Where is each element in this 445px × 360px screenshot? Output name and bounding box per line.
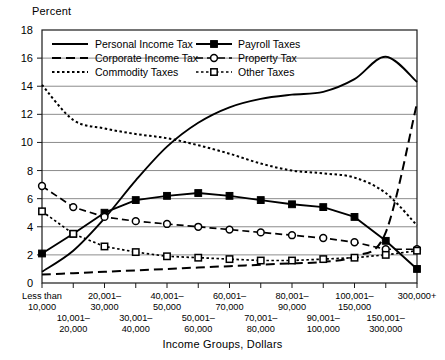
y-axis-tick-label: 0 [27, 277, 33, 289]
y-axis-ticks-group: 024681012141618 [21, 24, 42, 289]
legend-item-payroll-taxes: Payroll Taxes [196, 38, 300, 50]
data-point-marker-open-circle [351, 239, 358, 246]
data-point-marker-open-circle [70, 204, 77, 211]
data-point-marker-filled-square [320, 204, 327, 211]
x-axis-tick-label: 300,000+ [398, 291, 437, 301]
legend-item-other-taxes: Other Taxes [196, 66, 294, 78]
data-point-marker-open-square [351, 255, 357, 261]
series-personal-income-tax [42, 57, 417, 272]
data-point-marker-filled-square [351, 214, 358, 221]
x-axis-tick-label: Less than10,000 [22, 291, 62, 312]
legend-label: Property Tax [238, 52, 297, 64]
data-point-marker-filled-square [195, 190, 202, 197]
legend-label: Commodity Taxes [95, 66, 178, 78]
y-axis-tick-label: 6 [27, 193, 33, 205]
data-point-marker-filled-square [164, 192, 171, 199]
x-axis-tick-label: 20,001–30,000 [88, 291, 122, 312]
data-point-marker-filled-square [226, 192, 233, 199]
y-axis-tick-label: 8 [27, 165, 33, 177]
data-point-marker-open-circle [289, 232, 296, 239]
series-line [42, 57, 417, 272]
legend-label: Personal Income Tax [95, 38, 194, 50]
chart-container: Percent Income Groups, Dollars 024681012… [0, 0, 445, 360]
series-line [42, 85, 417, 226]
x-axis-tick-label: 60,001–70,000 [213, 291, 247, 312]
x-axis-tick-label: 150,001–300,000 [367, 313, 406, 334]
y-axis-tick-label: 4 [27, 221, 33, 233]
x-axis-tick-label: 70,001–80,000 [244, 313, 278, 334]
legend-item-personal-income-tax: Personal Income Tax [52, 38, 194, 50]
data-point-marker-open-circle [164, 221, 171, 228]
data-point-marker-filled-square [289, 201, 296, 208]
data-point-marker-open-square [258, 257, 264, 263]
x-axis-tick-label: 50,001–60,000 [182, 313, 216, 334]
data-point-marker-open-square [414, 247, 420, 253]
x-axis-tick-label: 30,001–40,000 [119, 313, 153, 334]
legend-label: Payroll Taxes [238, 38, 300, 50]
legend-item-commodity-taxes: Commodity Taxes [52, 66, 178, 78]
data-point-marker-filled-square [257, 197, 264, 204]
data-point-marker-filled-square [132, 197, 139, 204]
legend-marker-open-circle [211, 55, 218, 62]
data-point-marker-open-square [195, 255, 201, 261]
data-point-marker-open-square [383, 252, 389, 258]
data-point-marker-open-square [133, 249, 139, 255]
x-axis-tick-label: 40,001–50,000 [150, 291, 184, 312]
y-axis-tick-label: 2 [27, 249, 33, 261]
y-axis-title: Percent [32, 5, 71, 17]
y-axis-tick-label: 16 [21, 52, 33, 64]
x-axis-title: Income Groups, Dollars [0, 338, 445, 350]
legend-label: Corporate Income Tax [95, 52, 199, 64]
data-point-marker-open-circle [226, 226, 233, 233]
legend-item-property-tax: Property Tax [196, 52, 297, 64]
data-point-marker-open-square [70, 231, 76, 237]
x-axis-tick-label: 100,001–150,000 [335, 291, 374, 312]
data-point-marker-open-square [320, 256, 326, 262]
x-axis-ticks-group [42, 283, 417, 288]
data-point-marker-open-square [164, 253, 170, 259]
legend-marker-open-square [211, 69, 217, 75]
data-point-marker-open-square [101, 243, 107, 249]
data-point-marker-open-square [39, 208, 45, 214]
x-axis-tick-label: 90,001–100,000 [307, 313, 341, 334]
data-point-marker-filled-square [39, 250, 46, 257]
data-point-marker-filled-square [382, 237, 389, 244]
y-axis-tick-label: 12 [21, 108, 33, 120]
x-axis-tick-label: 80,001–90,000 [275, 291, 309, 312]
y-axis-tick-label: 10 [21, 136, 33, 148]
y-axis-tick-label: 18 [21, 24, 33, 36]
series-other-taxes [39, 208, 420, 264]
data-point-marker-open-circle [257, 229, 264, 236]
series-line [42, 211, 417, 260]
legend-label: Other Taxes [238, 66, 294, 78]
data-point-marker-filled-square [414, 266, 421, 273]
data-point-marker-open-circle [39, 183, 46, 190]
legend-marker-filled-square [211, 41, 218, 48]
line-chart-plot: 024681012141618 Less than10,00020,001–30… [0, 0, 445, 360]
series-corporate-income-tax [42, 103, 417, 274]
y-axis-tick-label: 14 [21, 80, 33, 92]
data-point-marker-open-circle [195, 223, 202, 230]
series-commodity-taxes [42, 85, 417, 226]
data-point-marker-open-square [289, 257, 295, 263]
data-series-group [39, 57, 421, 275]
data-point-marker-open-circle [320, 235, 327, 242]
data-point-marker-open-square [226, 256, 232, 262]
data-point-marker-open-circle [132, 218, 139, 225]
x-axis-labels-group: Less than10,00020,001–30,00040,001–50,00… [22, 291, 436, 334]
x-axis-tick-label: 10,001–20,000 [57, 313, 91, 334]
legend-item-corporate-income-tax: Corporate Income Tax [52, 52, 199, 64]
series-line [42, 103, 417, 274]
data-point-marker-open-circle [101, 214, 108, 221]
